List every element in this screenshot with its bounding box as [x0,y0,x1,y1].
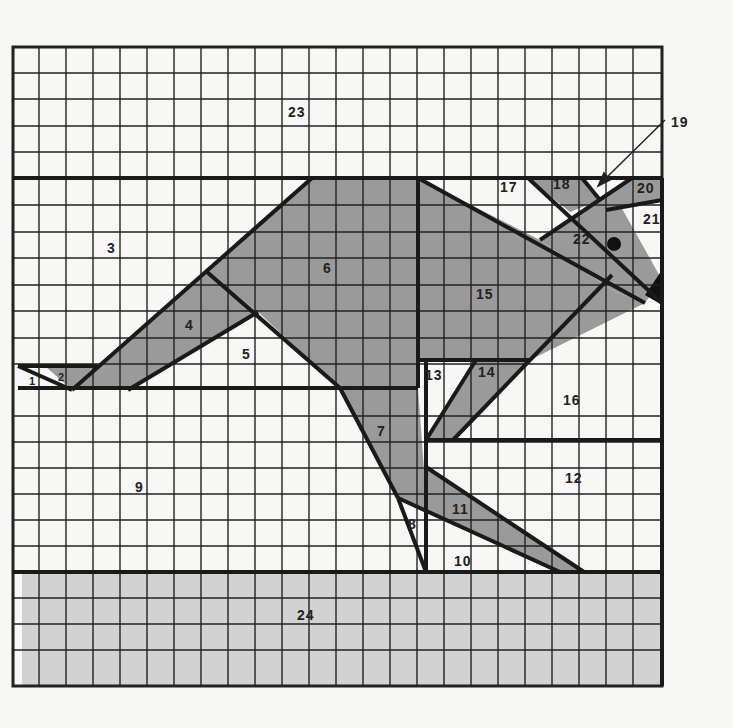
label-12: 12 [565,470,583,486]
label-7: 7 [377,423,386,439]
kangaroo-grid-diagram: 1 2 3 4 5 6 7 8 9 10 11 12 13 14 15 16 1… [0,0,733,728]
label-18: 18 [553,176,571,192]
label-24: 24 [297,607,315,623]
label-10: 10 [454,553,472,569]
kangaroo-shape [45,178,662,572]
label-17: 17 [500,179,518,195]
label-4: 4 [185,317,194,333]
label-1: 1 [29,375,36,387]
label-2: 2 [58,371,65,383]
label-16: 16 [563,392,581,408]
label-9: 9 [135,479,144,495]
label-22: 22 [573,231,591,247]
label-14: 14 [478,364,496,380]
label-23: 23 [288,104,306,120]
label-15: 15 [476,286,494,302]
label-11: 11 [452,501,469,517]
label-21: 21 [643,211,661,227]
region-6 [207,178,418,388]
label-13: 13 [425,367,443,383]
label-20: 20 [637,180,655,196]
label-19: 19 [671,114,689,130]
eye-icon [607,237,621,251]
region-24-ground [22,572,663,686]
label-3: 3 [107,240,116,256]
label-5: 5 [242,346,251,362]
label-8: 8 [408,516,417,532]
label-6: 6 [323,260,332,276]
